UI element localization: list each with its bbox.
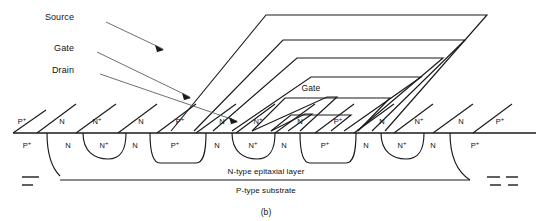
leader-gate <box>97 52 190 97</box>
doping-label-bottom: N <box>132 142 137 150</box>
doping-label-bottom: N <box>281 142 286 150</box>
inner-gate-label: Gate <box>302 84 321 93</box>
stripe-diag <box>433 104 473 133</box>
doping-label-top: P+ <box>18 118 27 126</box>
callout-leaders <box>97 22 237 121</box>
doping-label-top: P+ <box>334 118 343 126</box>
stripe-diag <box>275 104 315 133</box>
chevron-outer-1 <box>171 15 487 131</box>
doping-superscript: + <box>476 140 480 146</box>
callout-label-source: Source <box>45 13 74 22</box>
doping-superscript: + <box>420 116 424 122</box>
doping-label-bottom: P+ <box>23 142 32 150</box>
doping-superscript: + <box>254 140 258 146</box>
doping-superscript: + <box>326 140 330 146</box>
doping-label-top: N <box>458 118 463 126</box>
doping-label-bottom: P+ <box>321 142 330 150</box>
doping-superscript: + <box>181 116 185 122</box>
epitaxial-layer-label: N-type epitaxial layer <box>228 168 305 176</box>
doping-superscript: + <box>501 116 505 122</box>
figure-caption: (b) <box>261 208 272 217</box>
doping-label-bottom: P+ <box>471 142 480 150</box>
doping-superscript: + <box>28 140 32 146</box>
chevron-inner-6 <box>271 114 312 131</box>
doping-label-top: N <box>297 118 302 126</box>
doping-label-top: N+ <box>415 118 424 126</box>
doping-label-bottom: P+ <box>171 142 180 150</box>
doping-superscript: + <box>98 116 102 122</box>
doping-superscript: + <box>176 140 180 146</box>
figure-canvas: Source Gate Drain Gate N-type epitaxial … <box>0 0 549 221</box>
callout-label-gate: Gate <box>54 44 74 53</box>
doping-superscript: + <box>259 116 263 122</box>
doping-label-top: N+ <box>93 118 102 126</box>
leader-drain <box>100 74 237 121</box>
callout-label-drain: Drain <box>52 66 74 75</box>
epi-dashes-right <box>487 177 518 185</box>
doping-superscript: + <box>403 140 407 146</box>
chevron-stripes <box>171 15 487 131</box>
doping-label-top: P+ <box>176 118 185 126</box>
doping-label-top: N <box>379 118 384 126</box>
doping-label-top: N+ <box>254 118 263 126</box>
pplus-well-left-edge <box>47 133 60 176</box>
stripe-diag <box>37 104 76 133</box>
doping-superscript: + <box>23 116 27 122</box>
doping-label-bottom: N+ <box>100 142 109 150</box>
doping-label-bottom: N <box>430 142 435 150</box>
leader-source <box>106 22 163 49</box>
callout-arrowheads <box>151 45 238 126</box>
doping-label-bottom: N <box>65 142 70 150</box>
stripe-diag <box>473 104 512 133</box>
doping-label-bottom: N <box>214 142 219 150</box>
doping-label-top: N <box>59 118 64 126</box>
doping-label-top: N <box>219 118 224 126</box>
pplus-well-right-edge <box>450 133 470 180</box>
doping-label-top: P+ <box>496 118 505 126</box>
doping-superscript: + <box>339 116 343 122</box>
substrate-layer-label: P-type substrate <box>236 187 296 195</box>
doping-label-bottom: N+ <box>249 142 258 150</box>
epi-dashes-left <box>22 177 39 185</box>
doping-superscript: + <box>105 140 109 146</box>
doping-label-bottom: N <box>363 142 368 150</box>
doping-label-bottom: N+ <box>398 142 407 150</box>
doping-label-top: N <box>138 118 143 126</box>
stripe-diag <box>394 104 433 133</box>
epi-substrate-boundary <box>22 177 518 185</box>
